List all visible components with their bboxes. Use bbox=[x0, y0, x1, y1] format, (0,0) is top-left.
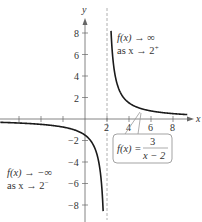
y-tick-8: 8 bbox=[74, 28, 79, 39]
formula-denominator: x − 2 bbox=[142, 150, 166, 161]
x-axis-label: x bbox=[195, 113, 201, 124]
formula-numerator: 3 bbox=[150, 136, 155, 147]
y-tick-neg8: −8 bbox=[68, 200, 79, 211]
y-axis-arrow-icon bbox=[83, 18, 88, 25]
x-tick-2: 2 bbox=[104, 122, 109, 133]
y-tick-4: 4 bbox=[74, 71, 79, 82]
x-tick-6: 6 bbox=[148, 122, 153, 133]
y-tick-neg4: −4 bbox=[68, 157, 79, 168]
annotation-left-sup: − bbox=[45, 179, 49, 187]
annotation-right-line2: as x → 2+ bbox=[117, 44, 159, 56]
rational-function-graph: x y 2 4 6 8 8 6 4 2 −2 −4 −6 −8 f(x) → ∞… bbox=[0, 0, 202, 222]
annotation-left-line1: f(x) → −∞ bbox=[7, 167, 52, 179]
curve-right-branch bbox=[111, 31, 187, 115]
annotation-left-line2: as x → 2− bbox=[7, 179, 49, 191]
y-tick-neg2: −2 bbox=[68, 135, 79, 146]
y-axis-label: y bbox=[81, 4, 87, 15]
annotation-right-sup: + bbox=[155, 44, 159, 52]
formula-lhs: f(x) = bbox=[117, 143, 141, 155]
x-tick-8: 8 bbox=[170, 122, 175, 133]
y-tick-neg6: −6 bbox=[68, 178, 79, 189]
formula-pointer-2 bbox=[138, 113, 141, 134]
annotation-right-as: as x → 2 bbox=[117, 45, 155, 56]
annotation-right-line1: f(x) → ∞ bbox=[117, 32, 155, 44]
y-tick-2: 2 bbox=[74, 93, 79, 104]
x-axis-arrow-icon bbox=[187, 117, 194, 122]
y-tick-6: 6 bbox=[74, 50, 79, 61]
annotation-left-as: as x → 2 bbox=[7, 180, 45, 191]
